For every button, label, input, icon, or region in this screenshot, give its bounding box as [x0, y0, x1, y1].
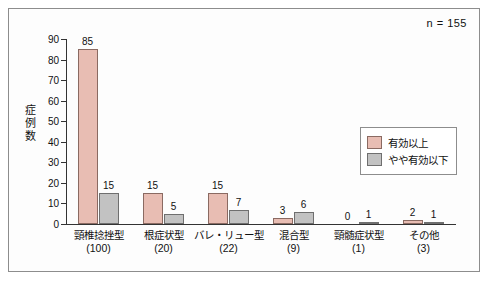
y-tick-label: 50 [48, 116, 59, 127]
bar [424, 222, 444, 224]
bar-value-label: 1 [359, 209, 379, 220]
x-category-label: その他(3) [369, 229, 479, 255]
bar [229, 210, 249, 224]
y-tick-label: 30 [48, 157, 59, 168]
bar-group: 36 [261, 39, 326, 224]
bar-value-label: 2 [403, 207, 423, 218]
legend-item-1: やや有効以下 [367, 152, 448, 167]
bar-value-label: 85 [78, 36, 98, 47]
sample-size-note: n = 155 [426, 17, 467, 29]
y-tick-mark [61, 224, 66, 225]
bar [403, 220, 423, 224]
y-tick-label: 40 [48, 136, 59, 147]
bar [143, 193, 163, 224]
y-tick-label: 80 [48, 54, 59, 65]
y-tick-label: 0 [53, 219, 59, 230]
y-tick-label: 70 [48, 75, 59, 86]
y-tick-label: 60 [48, 95, 59, 106]
bar [78, 49, 98, 224]
y-tick-label: 10 [48, 198, 59, 209]
bar-value-label: 3 [273, 205, 293, 216]
bar-value-label: 5 [164, 201, 184, 212]
bar [273, 218, 293, 224]
bar-group: 157 [196, 39, 261, 224]
legend-label: やや有効以下 [388, 152, 448, 167]
legend-swatch-icon [367, 153, 382, 166]
bar-value-label: 15 [208, 180, 228, 191]
legend-item-0: 有効以上 [367, 135, 448, 150]
bar-group: 155 [131, 39, 196, 224]
y-tick-label: 90 [48, 34, 59, 45]
x-category-count: (3) [369, 242, 479, 255]
bar-value-label: 0 [338, 211, 358, 222]
bar [208, 193, 228, 224]
bar-value-label: 15 [143, 180, 163, 191]
legend: 有効以上 やや有効以下 [360, 127, 457, 175]
bar-value-label: 1 [424, 209, 444, 220]
chart-frame: n = 155 症例数 0102030405060708090 85151551… [8, 8, 480, 272]
y-axis-title: 症例数 [23, 104, 37, 143]
legend-swatch-icon [367, 136, 382, 149]
bar-group: 8515 [66, 39, 131, 224]
bar [294, 212, 314, 224]
bar [359, 222, 379, 224]
bar-value-label: 7 [229, 197, 249, 208]
bar [99, 193, 119, 224]
x-axis-line [66, 224, 456, 225]
legend-label: 有効以上 [388, 135, 428, 150]
x-category-name: その他 [369, 229, 479, 242]
y-tick-label: 20 [48, 177, 59, 188]
bar [164, 214, 184, 224]
bar-value-label: 6 [294, 199, 314, 210]
bar-value-label: 15 [99, 180, 119, 191]
